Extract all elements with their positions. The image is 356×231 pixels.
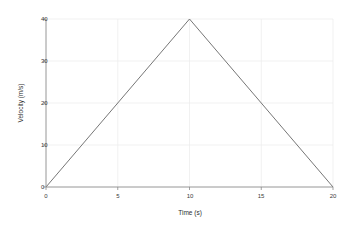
x-tick-label-1: 5: [116, 193, 119, 199]
x-tick-label-3: 15: [258, 193, 265, 199]
y-axis-title: Velocity (m/s): [18, 83, 25, 122]
x-tick-label-2: 10: [187, 193, 194, 199]
plot-canvas: [0, 0, 356, 231]
x-tick-label-4: 20: [330, 193, 337, 199]
velocity-time-chart: 0 5 10 15 20 0 10 20 30 40 Time (s) Velo…: [0, 0, 356, 231]
x-axis-title: Time (s): [178, 210, 202, 217]
x-tick-label-0: 0: [44, 193, 47, 199]
